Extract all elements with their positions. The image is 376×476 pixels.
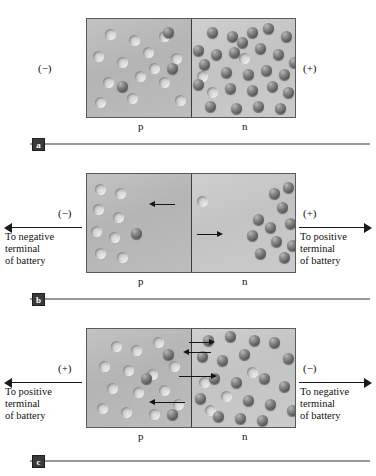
electron-carrier [281, 31, 292, 42]
junction-line-a [191, 19, 192, 117]
polarity-left-c: (+) [58, 362, 72, 374]
hole-carrier [95, 97, 106, 108]
p-label-b: p [138, 275, 144, 287]
hole-carrier [109, 232, 120, 243]
polarity-right-c: (−) [303, 362, 317, 374]
polarity-left-b: (−) [58, 207, 72, 219]
arrowshaft [179, 376, 212, 377]
electron-carrier [253, 214, 264, 225]
electron-carrier [283, 353, 294, 364]
terminal-text-right-c: To negative terminal of battery [300, 386, 349, 422]
hole-carrier [117, 57, 128, 68]
arrowshaft-left-c [11, 382, 82, 383]
electron-carrier [117, 81, 128, 92]
electron-carrier [167, 63, 178, 74]
hole-carrier [133, 387, 144, 398]
panel-badge-a: a [32, 138, 45, 151]
electron-carrier [271, 236, 282, 247]
polarity-left-a: (−) [38, 62, 52, 74]
electron-carrier [225, 331, 236, 342]
p-region-b [87, 174, 191, 272]
electron-carrier [279, 381, 290, 392]
terminal-text-right-b: To positive terminal of battery [300, 231, 347, 267]
arrowshaft [197, 234, 218, 235]
panel-c: (+) (−) To positive terminal of battery … [0, 310, 376, 476]
electron-carrier [279, 69, 290, 80]
hole-carrier [143, 47, 154, 58]
electron-carrier [247, 85, 258, 96]
electron-carrier [249, 335, 260, 346]
electron-carrier [261, 65, 272, 76]
hole-carrier [93, 51, 104, 62]
p-region-a [87, 19, 191, 117]
hole-carrier [159, 385, 170, 396]
electron-carrier [237, 37, 248, 48]
panel-b: (−) (+) To negative terminal of battery … [0, 155, 376, 310]
n-label-b: n [242, 275, 248, 287]
electron-carrier [243, 69, 254, 80]
hole-carrier [103, 77, 114, 88]
carrier-motion-arrow-left [183, 349, 211, 356]
electron-carrier [229, 47, 240, 58]
electron-carrier [235, 413, 246, 424]
hole-carrier [169, 361, 180, 372]
hole-carrier [121, 407, 132, 418]
terminal-text-left-c: To positive terminal of battery [5, 386, 52, 422]
n-label-a: n [242, 120, 248, 132]
n-region-b [191, 174, 295, 272]
electron-carrier [193, 79, 204, 90]
electron-carrier [131, 228, 142, 239]
electron-carrier [269, 337, 280, 348]
electron-carrier [231, 377, 242, 388]
electron-carrier [247, 27, 258, 38]
electron-carrier [163, 349, 174, 360]
electron-carrier [225, 83, 236, 94]
hole-carrier [123, 365, 134, 376]
terminal-text-left-b: To negative terminal of battery [5, 231, 54, 267]
arrowshaft [154, 204, 175, 205]
hole-carrier [239, 53, 250, 64]
arrowhead-right-b [364, 223, 372, 233]
panel-badge-b: b [32, 293, 45, 306]
arrowshaft [189, 342, 210, 343]
hole-carrier [197, 196, 208, 207]
n-region-a [191, 19, 295, 117]
hole-carrier [91, 226, 102, 237]
hole-carrier [117, 252, 128, 263]
hole-carrier [159, 77, 170, 88]
electron-carrier [243, 395, 254, 406]
divider-rule-b [30, 298, 370, 300]
electron-carrier [285, 218, 296, 229]
electron-carrier [231, 103, 242, 114]
electron-carrier [279, 252, 290, 263]
hole-carrier [95, 184, 106, 195]
hole-carrier [131, 345, 142, 356]
carrier-motion-arrow-right [179, 373, 217, 380]
electron-carrier [163, 27, 174, 38]
electron-carrier [265, 399, 276, 410]
hole-carrier [175, 95, 186, 106]
hole-carrier [135, 71, 146, 82]
hole-carrier [105, 29, 116, 40]
polarity-right-b: (+) [303, 207, 317, 219]
divider-rule-a [30, 143, 370, 145]
hole-carrier [127, 93, 138, 104]
arrowshaft-left-b [11, 227, 82, 228]
p-label-c: p [138, 430, 144, 442]
hole-carrier [129, 35, 140, 46]
electron-carrier [267, 81, 278, 92]
hole-carrier [207, 87, 218, 98]
carrier-motion-arrow-right [197, 231, 223, 238]
panel-badge-c: c [32, 455, 45, 468]
electron-carrier [195, 393, 206, 404]
electron-carrier [283, 182, 294, 193]
electron-carrier [253, 101, 264, 112]
electron-carrier [273, 49, 284, 60]
electron-carrier [239, 349, 250, 360]
p-label-a: p [138, 120, 144, 132]
hole-carrier [99, 361, 110, 372]
electron-carrier [263, 23, 274, 34]
electron-carrier [269, 188, 280, 199]
electron-carrier [287, 240, 296, 251]
arrowshaft-right-c [299, 382, 365, 383]
